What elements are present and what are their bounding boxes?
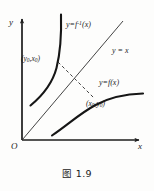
forward-function-label: y=f(x) [99,79,119,87]
y-axis-label: y [9,18,13,27]
inverse-point-first-sub: 0 [27,57,30,63]
mirror-dashed-segment [58,62,94,98]
forward-point-label: (x0,y0) [86,100,105,108]
forward-point-first-sub: 0 [92,102,95,108]
forward-point-second-sub: 0 [100,102,103,108]
inverse-label-suffix: (x) [82,20,91,29]
x-axis-label: x [138,142,142,151]
inverse-function-label: y=f-1(x) [66,21,91,29]
inverse-label-prefix: y=f [66,20,77,29]
inverse-point-second-sub: 0 [35,57,38,63]
inverse-label-exponent: -1 [77,20,82,26]
figure-caption: 图 1.9 [0,166,154,180]
identity-line-label: y = x [112,47,129,55]
origin-label: O [11,142,18,151]
inverse-point-label: (y0,x0) [21,55,40,63]
figure-container: y x O y=f-1(x) y = x y=f(x) (y0,x0) (x0,… [0,0,154,191]
